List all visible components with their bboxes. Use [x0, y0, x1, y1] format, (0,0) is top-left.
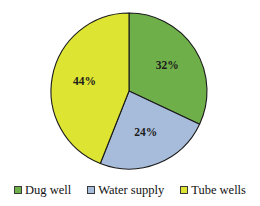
legend-item-tube-wells[interactable]: Tube wells — [180, 184, 246, 197]
legend-swatch-icon-dug-well — [14, 186, 22, 194]
legend-label-tube-wells: Tube wells — [191, 184, 246, 197]
pie-svg: 32% 24% 44% — [0, 0, 260, 174]
pie-chart-figure: 32% 24% 44% Dug well Water supply Tube w… — [0, 0, 260, 206]
pie-slices — [51, 13, 207, 169]
pie-plot-area: 32% 24% 44% — [0, 0, 260, 174]
pie-slice-label-1: 24% — [134, 126, 157, 138]
legend-swatch-icon-water-supply — [87, 186, 95, 194]
legend-item-water-supply[interactable]: Water supply — [87, 184, 164, 197]
legend-item-dug-well[interactable]: Dug well — [14, 184, 71, 197]
legend-label-dug-well: Dug well — [25, 184, 71, 197]
pie-slice-label-2: 44% — [73, 75, 96, 87]
chart-legend: Dug well Water supply Tube wells — [0, 176, 260, 204]
pie-slice-label-0: 32% — [156, 59, 179, 71]
legend-label-water-supply: Water supply — [98, 184, 164, 197]
legend-swatch-icon-tube-wells — [180, 186, 188, 194]
